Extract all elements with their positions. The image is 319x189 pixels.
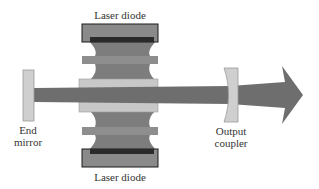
end-mirror-label-line2: mirror [8,136,48,148]
laser-beam-arrow [34,66,303,124]
top-laser-diode-label: Laser diode [82,9,158,21]
output-coupler-label: Output coupler [208,125,254,149]
end-mirror-label-line1: End [8,124,48,136]
end-mirror [23,70,34,121]
laser-cavity-diagram [0,0,319,189]
end-mirror-label: End mirror [8,124,48,148]
bottom-pump-beam [82,111,158,149]
output-coupler-label-line2: coupler [208,137,254,149]
bottom-laser-diode [82,149,158,167]
bottom-laser-diode-label: Laser diode [82,171,158,183]
top-pump-beam [82,42,158,80]
top-laser-diode [82,24,158,42]
output-coupler-label-line1: Output [208,125,254,137]
